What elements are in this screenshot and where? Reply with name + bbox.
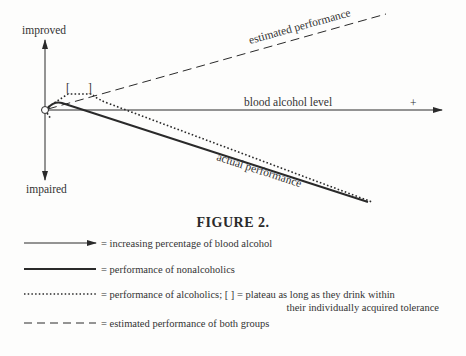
legend-item-blood-alcohol: = increasing percentage of blood alcohol — [101, 238, 272, 249]
legend: = increasing percentage of blood alcohol… — [24, 238, 439, 329]
legend-item-nonalcoholics: = performance of nonalcoholics — [101, 264, 235, 275]
y-axis-impaired-label: impaired — [26, 183, 67, 196]
x-axis-plus-sign: + — [410, 97, 417, 109]
plateau-bracket-close: ] — [88, 82, 92, 94]
y-axis-improved-label: improved — [22, 24, 66, 37]
nonalcoholics-performance-line — [48, 103, 368, 202]
x-axis-label: blood alcohol level — [244, 96, 332, 108]
figure-diagram: [ ] improved impaired blood alcohol leve… — [0, 0, 466, 356]
legend-item-alcoholics-line2: their individually acquired tolerance — [287, 302, 440, 313]
origin-circle — [42, 107, 49, 114]
legend-item-alcoholics: = performance of alcoholics; [ ] = plate… — [101, 289, 396, 300]
figure-title: FIGURE 2. — [197, 215, 270, 230]
actual-performance-label: actual performance — [215, 150, 303, 190]
estimated-performance-label: estimated performance — [247, 6, 352, 47]
estimated-performance-line — [48, 14, 386, 109]
plateau-bracket-open: [ — [66, 82, 70, 94]
legend-item-estimated: = estimated performance of both groups — [101, 318, 269, 329]
